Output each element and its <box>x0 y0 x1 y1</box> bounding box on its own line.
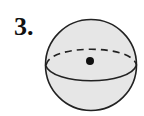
sphere-figure <box>0 0 144 116</box>
sphere-outline <box>46 20 137 111</box>
center-point-dot <box>86 57 94 65</box>
